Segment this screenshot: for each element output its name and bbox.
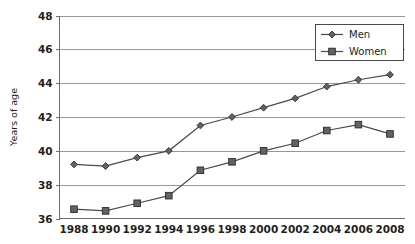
data-point-women-2008 xyxy=(387,131,394,138)
chart-legend: MenWomen xyxy=(316,25,404,61)
y-tick-label-40: 40 xyxy=(38,145,53,157)
data-point-women-1994 xyxy=(166,192,173,199)
y-tick-label-44: 44 xyxy=(38,77,53,89)
x-tick-label-1996: 1996 xyxy=(186,223,215,235)
y-tick-label-42: 42 xyxy=(38,111,53,123)
legend-label-women: Women xyxy=(349,46,387,57)
data-point-women-2002 xyxy=(292,140,299,147)
x-axis-tick-labels: 1988199019921994199619982000200220042006… xyxy=(59,223,404,235)
x-tick-label-1992: 1992 xyxy=(123,223,152,235)
chart-canvas: 36384042444648 1988199019921994199619982… xyxy=(0,0,415,244)
data-point-women-1988 xyxy=(71,206,78,213)
x-tick-label-2008: 2008 xyxy=(375,223,404,235)
legend-label-men: Men xyxy=(349,29,370,40)
y-tick-label-48: 48 xyxy=(38,10,53,22)
x-tick-label-1998: 1998 xyxy=(217,223,246,235)
x-tick-label-2000: 2000 xyxy=(249,223,278,235)
data-point-women-2006 xyxy=(355,121,362,128)
x-tick-label-1994: 1994 xyxy=(154,223,183,235)
legend-marker-women xyxy=(329,48,336,55)
data-point-women-1998 xyxy=(229,159,236,166)
line-chart: 36384042444648 1988199019921994199619982… xyxy=(0,0,415,244)
y-axis-title: Years of age xyxy=(8,88,19,147)
y-tick-label-46: 46 xyxy=(38,43,53,55)
x-tick-label-1990: 1990 xyxy=(91,223,120,235)
x-tick-label-2004: 2004 xyxy=(312,223,341,235)
x-tick-label-2006: 2006 xyxy=(344,223,373,235)
x-tick-label-2002: 2002 xyxy=(281,223,310,235)
y-tick-label-38: 38 xyxy=(38,179,53,191)
data-point-women-1992 xyxy=(134,200,141,207)
data-point-women-2004 xyxy=(324,127,331,134)
data-point-women-2000 xyxy=(260,148,267,155)
y-tick-label-36: 36 xyxy=(38,213,53,225)
data-point-women-1996 xyxy=(197,167,204,174)
data-point-women-1990 xyxy=(102,208,109,215)
x-tick-label-1988: 1988 xyxy=(59,223,88,235)
